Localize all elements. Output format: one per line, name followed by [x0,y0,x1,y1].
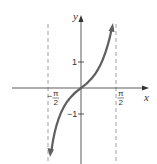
pos-half-pi-denominator: 2 [119,98,124,107]
x-axis-label: x [143,91,149,103]
pos-half-pi-numerator: π [118,89,124,98]
neg-half-pi-denominator: 2 [54,98,59,107]
curve-bottom-arrow-icon [48,148,55,157]
y-tick-label-1: 1 [72,57,77,67]
neg-half-pi-numerator: π [53,89,59,98]
neg-sign: − [47,91,52,101]
curve-top-arrow-icon [109,23,115,32]
y-tick-label-neg1: −1 [67,109,77,119]
tangent-graph: y x 1 −1 − π 2 π 2 [0,0,157,164]
x-axis-arrow-icon [142,86,149,91]
y-axis-arrow-icon [79,15,84,22]
y-axis-label: y [72,10,78,22]
tangent-curve [52,30,112,150]
